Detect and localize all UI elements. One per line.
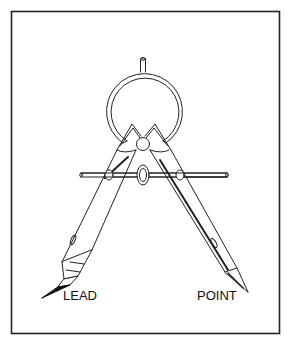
- adjusting-bar: [80, 170, 228, 180]
- handle-pin: [141, 58, 146, 73]
- compass-illustration: [0, 0, 289, 342]
- right-leg: [150, 150, 248, 292]
- left-leg: [42, 150, 136, 298]
- point-label: POINT: [197, 288, 237, 303]
- pivot-ball: [137, 138, 150, 151]
- adjusting-nut: [137, 165, 149, 185]
- spring-ring: [107, 74, 183, 143]
- lead-label: LEAD: [63, 288, 97, 303]
